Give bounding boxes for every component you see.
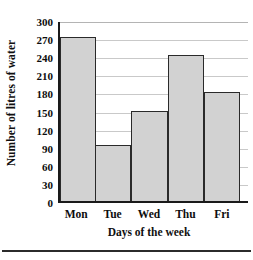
y-axis-title: Number of litres of water — [0, 0, 22, 205]
y-axis-tick-label: 120 — [37, 125, 54, 136]
bar-fri[interactable] — [204, 92, 240, 201]
bar-series — [60, 20, 242, 201]
x-axis-title: Days of the week — [58, 226, 240, 238]
bar-thu[interactable] — [168, 55, 204, 201]
x-axis-tick-label: Thu — [167, 206, 203, 224]
y-axis-tick-label: 90 — [42, 143, 53, 154]
bar-slot — [169, 20, 205, 201]
y-axis-tick-labels: 0306090120150180210240270300 — [22, 0, 56, 260]
bottom-divider — [2, 250, 251, 252]
y-axis-tick-label: 240 — [37, 53, 54, 64]
y-axis-tick-label: 30 — [42, 179, 53, 190]
x-axis-tick-labels: MonTueWedThuFri — [58, 206, 240, 224]
x-axis-tick-label: Fri — [204, 206, 240, 224]
bar-slot — [60, 20, 96, 201]
y-axis-tick-label: 180 — [37, 89, 54, 100]
y-axis-title-text: Number of litres of water — [5, 39, 17, 166]
bar-chart-figure: Number of litres of water 03060901201501… — [0, 0, 253, 260]
bar-slot — [206, 20, 242, 201]
y-axis-tick-label: 60 — [42, 161, 53, 172]
bar-slot — [96, 20, 132, 201]
y-axis-tick-label: 0 — [48, 198, 54, 209]
x-axis-tick-label: Mon — [58, 206, 94, 224]
bar-slot — [133, 20, 169, 201]
bar-wed[interactable] — [131, 111, 167, 202]
y-axis-tick-label: 210 — [37, 71, 54, 82]
x-axis-tick-label: Tue — [94, 206, 130, 224]
y-axis-tick-label: 300 — [37, 17, 54, 28]
plot-area — [58, 22, 248, 203]
bar-mon[interactable] — [60, 37, 96, 201]
y-axis-tick-label: 270 — [37, 35, 54, 46]
x-axis-tick-label: Wed — [131, 206, 167, 224]
bar-tue[interactable] — [95, 145, 131, 201]
y-axis-tick-label: 150 — [37, 107, 54, 118]
